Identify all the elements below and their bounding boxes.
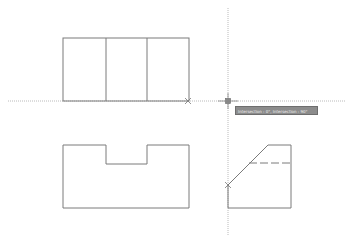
- side-view[interactable]: [228, 145, 291, 208]
- drawing-canvas[interactable]: [0, 0, 353, 241]
- front-view[interactable]: [63, 38, 189, 101]
- top-view[interactable]: [63, 145, 189, 208]
- tracking-tooltip: Intersection : 0°, Intersection : 90°: [235, 106, 318, 115]
